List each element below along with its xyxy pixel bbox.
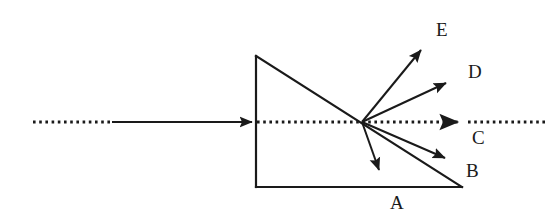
ray-diagram-figure: A B C D E — [0, 0, 559, 221]
ray-label-c: C — [472, 128, 485, 147]
ray-label-b: B — [466, 161, 479, 180]
ray-e-line — [362, 50, 421, 122]
ray-diagram-canvas — [0, 0, 559, 221]
ray-label-d: D — [468, 62, 482, 81]
ray-label-a: A — [390, 193, 404, 212]
ray-d-line — [362, 83, 446, 122]
ray-label-e: E — [436, 20, 448, 39]
ray-b-line — [362, 122, 445, 158]
